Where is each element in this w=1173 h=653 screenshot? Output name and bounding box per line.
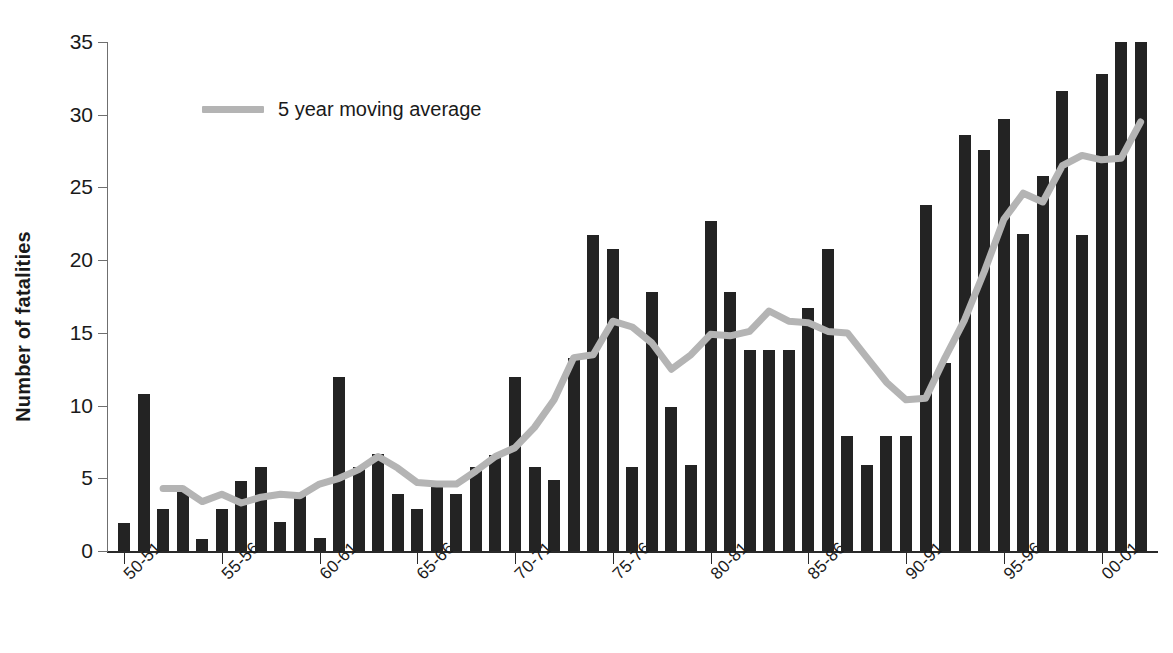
- moving-average-line-swatch: [202, 106, 264, 113]
- x-tick-mark: [808, 552, 809, 564]
- bar: [626, 467, 638, 551]
- bar: [548, 480, 560, 551]
- bar: [294, 494, 306, 551]
- bar: [353, 467, 365, 551]
- bar: [1017, 234, 1029, 551]
- bars-layer: [0, 0, 1173, 551]
- x-tick-mark: [417, 552, 418, 564]
- bar: [235, 481, 247, 551]
- bar: [216, 509, 228, 551]
- bar: [470, 467, 482, 551]
- bar: [509, 377, 521, 552]
- x-tick-mark: [613, 552, 614, 564]
- bar: [705, 221, 717, 551]
- bar: [118, 523, 130, 551]
- legend-label: 5 year moving average: [278, 98, 481, 121]
- bar: [783, 350, 795, 551]
- bar: [314, 538, 326, 551]
- bar: [392, 494, 404, 551]
- bar: [998, 119, 1010, 551]
- bar: [431, 486, 443, 551]
- bar: [920, 205, 932, 551]
- bar: [450, 494, 462, 551]
- chart-legend: 5 year moving average: [202, 98, 481, 121]
- bar: [939, 363, 951, 551]
- bar: [587, 235, 599, 551]
- bar: [177, 490, 189, 551]
- x-tick-mark: [124, 552, 125, 564]
- bars-container: [0, 0, 1173, 551]
- x-tick-mark: [515, 552, 516, 564]
- bar: [685, 465, 697, 551]
- x-tick-mark: [1102, 552, 1103, 564]
- bar: [841, 436, 853, 551]
- y-tick-mark: [98, 551, 108, 552]
- bar: [744, 350, 756, 551]
- bar: [489, 455, 501, 551]
- bar: [138, 394, 150, 551]
- bar: [1037, 176, 1049, 551]
- bar: [529, 467, 541, 551]
- bar: [1135, 42, 1147, 551]
- bar: [333, 377, 345, 552]
- bar: [1115, 42, 1127, 551]
- bar: [959, 135, 971, 551]
- bar: [822, 249, 834, 551]
- bar: [724, 292, 736, 551]
- bar: [157, 509, 169, 551]
- x-tick-mark: [906, 552, 907, 564]
- bar: [568, 358, 580, 551]
- bar: [880, 436, 892, 551]
- bar: [861, 465, 873, 551]
- bar: [372, 454, 384, 551]
- fatalities-bar-chart: Number of fatalities 05101520253035 50-5…: [0, 0, 1173, 653]
- bar: [978, 150, 990, 551]
- bar: [274, 522, 286, 551]
- bar: [411, 509, 423, 551]
- x-tick-mark: [1004, 552, 1005, 564]
- bar: [646, 292, 658, 551]
- x-tick-mark: [711, 552, 712, 564]
- bar: [900, 436, 912, 551]
- bar: [607, 249, 619, 551]
- bar: [763, 350, 775, 551]
- bar: [196, 539, 208, 551]
- x-tick-mark: [320, 552, 321, 564]
- bar: [255, 467, 267, 551]
- bar: [665, 407, 677, 551]
- bar: [1096, 74, 1108, 551]
- bar: [1056, 91, 1068, 551]
- x-tick-mark: [222, 552, 223, 564]
- bar: [1076, 235, 1088, 551]
- bar: [802, 308, 814, 551]
